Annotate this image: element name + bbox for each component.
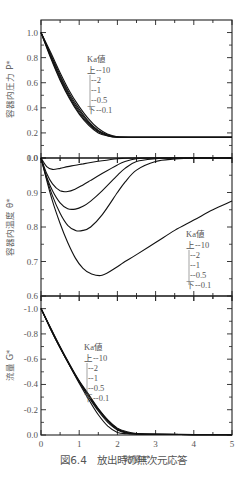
series-line xyxy=(41,33,232,138)
y-tick-label: 0.6 xyxy=(27,291,39,301)
legend-entry: --1 xyxy=(91,85,101,95)
legend: Ka値上--10--2--1--0.5下--0.1 xyxy=(186,229,211,290)
legend-entry: 下--0.1 xyxy=(87,105,112,115)
y-axis-label: 容器内温度 θ* xyxy=(5,198,15,255)
x-tick-label: 2 xyxy=(115,439,120,449)
legend: Ka値上--10--2--1--0.5下--0.1 xyxy=(87,54,112,115)
series-line xyxy=(41,309,232,435)
legend-entry: --0.5 xyxy=(91,95,107,105)
svg-text:Ka値: Ka値 xyxy=(186,229,205,239)
legend-entry: 下--0.1 xyxy=(84,393,109,403)
y-tick-label: 1.0 xyxy=(27,153,39,163)
series-line xyxy=(41,158,232,192)
legend-entry: 上--10 xyxy=(84,353,107,363)
panel-3: -1.0-0.8-0.6-0.4-0.20.0流量 G*Ka値上--10--2-… xyxy=(5,296,232,440)
legend-entry: --0.5 xyxy=(190,270,206,280)
x-tick-label: 5 xyxy=(230,439,235,449)
series-line xyxy=(41,33,232,138)
y-tick-label: -1.0 xyxy=(24,304,39,314)
panel-2: 0.60.70.80.91.0容器内温度 θ*Ka値上--10--2--1--0… xyxy=(5,153,232,301)
series-line xyxy=(41,158,232,276)
y-axis-label: 容器内圧力 P* xyxy=(5,60,15,117)
series-line xyxy=(41,309,232,435)
svg-text:Ka値: Ka値 xyxy=(84,342,103,352)
series-line xyxy=(41,33,232,138)
y-tick-label: 1.0 xyxy=(27,28,39,38)
figure-caption: 図6.4 放出時の無次元応答 xyxy=(0,452,247,467)
x-tick-label: 0 xyxy=(39,439,44,449)
series-line xyxy=(41,309,232,435)
y-axis-label: 流量 G* xyxy=(5,350,15,382)
legend-entry: --2 xyxy=(91,75,101,85)
legend-entry: 下--0.1 xyxy=(186,280,211,290)
series-line xyxy=(41,33,232,138)
y-tick-label: 0.9 xyxy=(27,188,39,198)
series-line xyxy=(41,158,232,231)
legend: Ka値上--10--2--1--0.5下--0.1 xyxy=(84,342,109,403)
y-tick-label: 0.2 xyxy=(27,128,38,138)
y-tick-label: -0.4 xyxy=(24,379,39,389)
legend-entry: --0.5 xyxy=(88,383,104,393)
y-tick-label: 0.0 xyxy=(27,430,39,440)
x-tick-label: 1 xyxy=(77,439,82,449)
svg-text:Ka値: Ka値 xyxy=(87,54,106,64)
series-line xyxy=(41,309,232,435)
chart-figure: 0.00.20.40.60.81.0容器内圧力 P*Ka値上--10--2--1… xyxy=(0,0,247,490)
y-tick-label: 0.7 xyxy=(27,257,39,267)
x-tick-label: 4 xyxy=(192,439,197,449)
series-line xyxy=(41,33,232,138)
legend-entry: --1 xyxy=(88,373,98,383)
y-tick-label: -0.6 xyxy=(24,354,39,364)
y-tick-label: -0.2 xyxy=(24,405,38,415)
y-tick-label: 0.8 xyxy=(27,53,39,63)
legend-entry: 上--10 xyxy=(186,240,209,250)
x-tick-label: 3 xyxy=(153,439,158,449)
series-line xyxy=(41,309,232,435)
legend-entry: --2 xyxy=(88,363,98,373)
legend-entry: --2 xyxy=(190,250,200,260)
y-tick-label: 0.6 xyxy=(27,78,39,88)
legend-entry: --1 xyxy=(190,260,200,270)
panel-1: 0.00.20.40.60.81.0容器内圧力 P*Ka値上--10--2--1… xyxy=(5,20,232,163)
y-tick-label: 0.8 xyxy=(27,222,39,232)
y-tick-label: 0.4 xyxy=(27,103,39,113)
legend-entry: 上--10 xyxy=(87,65,110,75)
y-tick-label: -0.8 xyxy=(24,329,39,339)
